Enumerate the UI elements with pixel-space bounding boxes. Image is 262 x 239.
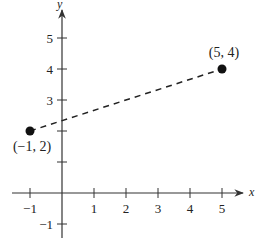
point-label: (5, 4) bbox=[209, 45, 240, 61]
data-point bbox=[218, 65, 227, 74]
x-tick-label: 4 bbox=[187, 201, 194, 216]
y-tick-label: −1 bbox=[39, 217, 53, 232]
x-tick-label: 5 bbox=[219, 201, 226, 216]
x-tick-label: 2 bbox=[123, 201, 130, 216]
point-label: (−1, 2) bbox=[13, 139, 52, 155]
x-tick-label: 3 bbox=[155, 201, 162, 216]
y-axis-label: y bbox=[56, 0, 63, 11]
y-tick-label: 4 bbox=[47, 62, 54, 77]
x-tick-label: 1 bbox=[91, 201, 98, 216]
coordinate-plane: xy −112345−1345 (−1, 2)(5, 4) bbox=[0, 0, 262, 239]
x-tick-label: −1 bbox=[23, 201, 37, 216]
data-point bbox=[26, 127, 35, 136]
ticks: −112345−1345 bbox=[23, 31, 225, 232]
x-axis-label: x bbox=[248, 185, 255, 199]
y-tick-label: 3 bbox=[47, 93, 54, 108]
y-tick-label: 5 bbox=[47, 31, 54, 46]
